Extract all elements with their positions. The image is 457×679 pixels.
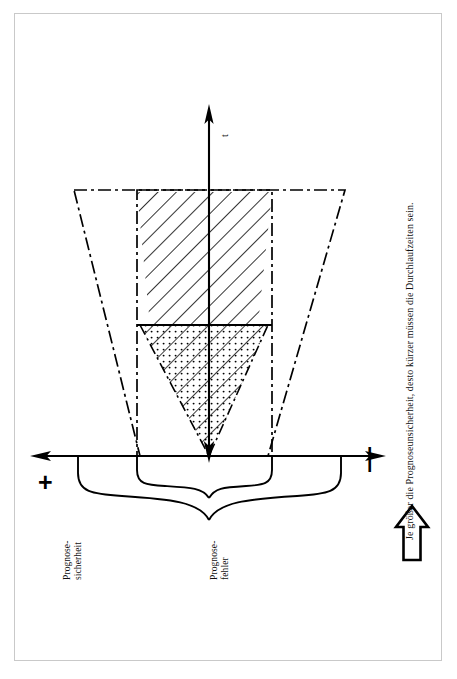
minus-symbol: —	[356, 447, 381, 472]
figure-caption: Je größer die Prognoseunsicherheit, dest…	[404, 110, 416, 540]
dotted-cone	[130, 320, 280, 460]
inner-brace	[137, 457, 272, 498]
label-prognosesicherheit: Prognose- sicherheit	[62, 541, 84, 580]
label-prognosefehler: Prognose- fehler	[209, 541, 231, 580]
figure-page: + — t Prognose- sicherheit Prognose- feh…	[0, 0, 457, 679]
hatched-cone	[130, 185, 280, 333]
time-axis-label: t	[219, 134, 231, 137]
plus-symbol: +	[38, 470, 53, 495]
outer-brace	[78, 457, 341, 520]
